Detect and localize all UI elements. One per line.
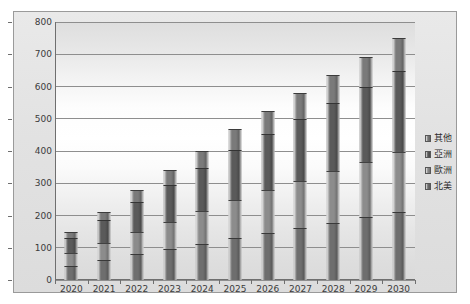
bar-segment: [163, 170, 176, 185]
legend-swatch-icon: [425, 151, 431, 158]
gridline: [55, 22, 415, 23]
y-axis-tick-mark: [8, 119, 12, 120]
bar-column: [163, 170, 176, 280]
bar-segment: [392, 71, 405, 152]
legend-item-label: 歐洲: [434, 166, 452, 175]
bar-segment: [98, 212, 111, 221]
legend-swatch-icon: [425, 135, 431, 142]
x-axis-tick-mark: [251, 280, 252, 284]
bar-segment: [261, 233, 274, 280]
x-axis-tick-mark: [186, 280, 187, 284]
bar-segment: [65, 266, 78, 281]
plot-inner: [55, 22, 415, 280]
y-axis-tick-mark: [8, 280, 12, 281]
bar-segment: [65, 238, 78, 253]
y-axis-tick-mark: [8, 248, 12, 249]
legend-item-label: 北美: [434, 182, 452, 191]
y-axis-tick-label: 800: [12, 17, 52, 27]
x-axis-tick-label: 2030: [387, 284, 410, 294]
bar-segment: [163, 222, 176, 249]
bar-column: [261, 111, 274, 280]
x-axis-tick-mark: [415, 280, 416, 284]
bar-segment: [294, 228, 307, 280]
y-axis-tick-label: 0: [12, 275, 52, 285]
x-axis-tick-label: 2026: [256, 284, 279, 294]
bar-segment: [327, 171, 340, 222]
x-axis-tick-label: 2029: [354, 284, 377, 294]
bar-segment: [327, 223, 340, 280]
x-axis-tick-label: 2024: [191, 284, 214, 294]
bar-column: [98, 212, 111, 280]
bar-segment: [294, 119, 307, 181]
bar-segment: [327, 75, 340, 103]
x-axis-tick-mark: [153, 280, 154, 284]
y-axis-tick-label: 700: [12, 49, 52, 59]
y-axis-tick-mark: [8, 54, 12, 55]
legend-swatch-icon: [425, 183, 431, 190]
bar-segment: [229, 238, 242, 280]
legend-item-label: 亞洲: [434, 150, 452, 159]
y-axis-tick-mark: [8, 183, 12, 184]
x-axis-tick-mark: [88, 280, 89, 284]
bar-column: [65, 232, 78, 280]
bar-segment: [130, 254, 143, 280]
bar-segment: [229, 150, 242, 200]
y-axis-tick-label: 200: [12, 211, 52, 221]
legend-item[interactable]: 亞洲: [425, 146, 470, 162]
y-axis-tick-mark: [8, 216, 12, 217]
x-axis-tick-label: 2028: [322, 284, 345, 294]
bar-segment: [196, 168, 209, 211]
x-axis-tick-mark: [350, 280, 351, 284]
chart-frame: 0100200300400500600700800 20202021202220…: [13, 11, 457, 293]
legend-item[interactable]: 歐洲: [425, 162, 470, 178]
bar-segment: [163, 185, 176, 221]
x-axis-tick-label: 2020: [60, 284, 83, 294]
bar-segment: [359, 217, 372, 280]
y-axis-tick-label: 600: [12, 82, 52, 92]
bar-column: [392, 38, 405, 280]
legend-item-label: 其他: [434, 134, 452, 143]
x-axis-tick-mark: [284, 280, 285, 284]
bar-segment: [98, 243, 111, 260]
x-axis-tick-label: 2022: [125, 284, 148, 294]
bar-column: [359, 57, 372, 280]
x-axis-tick-label: 2021: [93, 284, 116, 294]
y-axis-tick-mark: [8, 87, 12, 88]
legend-item[interactable]: 其他: [425, 130, 470, 146]
x-axis-tick-label: 2027: [289, 284, 312, 294]
bar-segment: [294, 181, 307, 228]
chart-screenshot: 0100200300400500600700800 20202021202220…: [0, 0, 470, 304]
gridline: [55, 280, 415, 281]
bar-segment: [261, 190, 274, 232]
bar-segment: [327, 103, 340, 171]
legend-swatch-icon: [425, 167, 431, 174]
bar-segment: [392, 152, 405, 213]
y-axis-tick-label: 400: [12, 146, 52, 156]
bar-segment: [196, 244, 209, 280]
bar-segment: [98, 220, 111, 243]
y-axis-line: [55, 22, 56, 280]
y-axis-tick-label: 300: [12, 178, 52, 188]
y-axis-tick-mark: [8, 151, 12, 152]
bar-segment: [229, 129, 242, 150]
bar-segment: [392, 212, 405, 280]
bar-segment: [359, 87, 372, 161]
legend-item[interactable]: 北美: [425, 178, 470, 194]
plot-area: [55, 22, 415, 280]
bar-segment: [359, 162, 372, 218]
gridline: [55, 54, 415, 55]
bar-segment: [261, 134, 274, 190]
bar-segment: [196, 151, 209, 168]
bar-column: [294, 93, 307, 280]
x-axis-tick-mark: [55, 280, 56, 284]
x-axis-tick-label: 2025: [224, 284, 247, 294]
x-axis-tick-mark: [382, 280, 383, 284]
bar-segment: [196, 211, 209, 243]
y-axis-tick-label: 100: [12, 243, 52, 253]
x-axis-tick-mark: [120, 280, 121, 284]
bar-segment: [98, 260, 111, 280]
x-axis-tick-mark: [317, 280, 318, 284]
chart-legend: 其他亞洲歐洲北美: [425, 130, 470, 194]
bar-column: [130, 190, 143, 280]
bar-column: [229, 129, 242, 280]
